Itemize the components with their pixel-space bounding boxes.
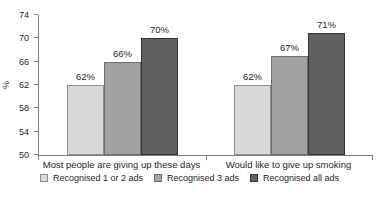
category-label: Most people are giving up these days — [38, 159, 205, 170]
x-axis-labels: Most people are giving up these daysWoul… — [38, 159, 372, 170]
bar-value-label: 67% — [280, 42, 299, 53]
bar — [141, 38, 178, 155]
bar — [67, 85, 104, 155]
legend-label: Recognised 3 ads — [167, 173, 239, 183]
bar-group: 62%66%70% — [39, 15, 206, 155]
y-tick-label: 62 — [19, 80, 29, 90]
y-tick-label: 70 — [19, 33, 29, 43]
legend-label: Recognised 1 or 2 ads — [53, 173, 143, 183]
bar-value-label: 66% — [113, 48, 132, 59]
bar-wrap: 71% — [308, 15, 345, 155]
bar — [308, 33, 345, 156]
legend-item: Recognised all ads — [250, 173, 339, 183]
bar-value-label: 62% — [243, 71, 262, 82]
legend-label: Recognised all ads — [263, 173, 339, 183]
y-tick-label: 50 — [19, 150, 29, 160]
legend-item: Recognised 1 or 2 ads — [40, 173, 143, 183]
bar — [234, 85, 271, 155]
legend-item: Recognised 3 ads — [154, 173, 239, 183]
legend-swatch — [154, 174, 162, 182]
y-axis: 74706662585450 — [0, 15, 38, 155]
y-tick-label: 66 — [19, 57, 29, 67]
bar-wrap: 62% — [234, 15, 271, 155]
x-tick-mark — [372, 156, 373, 160]
y-tick-label: 74 — [19, 10, 29, 20]
plot-area: 62%66%70%62%67%71% — [38, 15, 373, 156]
legend-swatch — [250, 174, 258, 182]
bar-value-label: 70% — [150, 24, 169, 35]
bar-wrap: 67% — [271, 15, 308, 155]
bar-wrap: 62% — [67, 15, 104, 155]
bar — [104, 62, 141, 155]
bar-value-label: 71% — [317, 19, 336, 30]
legend-swatch — [40, 174, 48, 182]
legend: Recognised 1 or 2 adsRecognised 3 adsRec… — [0, 173, 379, 183]
bar-wrap: 70% — [141, 15, 178, 155]
bar-value-label: 62% — [76, 71, 95, 82]
y-tick-label: 54 — [19, 127, 29, 137]
bar-wrap: 66% — [104, 15, 141, 155]
category-label: Would like to give up smoking — [205, 159, 372, 170]
y-tick-label: 58 — [19, 103, 29, 113]
bar-group: 62%67%71% — [206, 15, 373, 155]
bar-chart: % 74706662585450 62%66%70%62%67%71% Most… — [0, 0, 379, 197]
bar — [271, 56, 308, 155]
